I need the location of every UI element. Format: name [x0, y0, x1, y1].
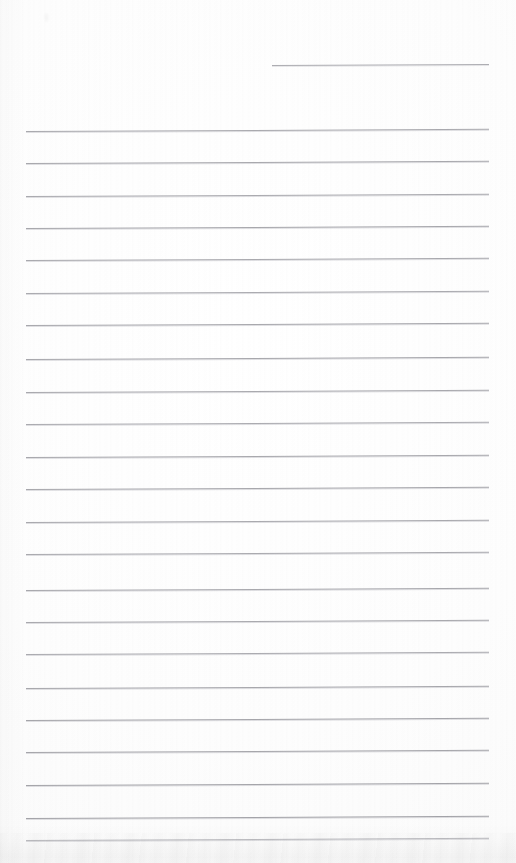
ruled-line — [26, 455, 489, 458]
ruled-lines-layer — [0, 0, 516, 863]
ruled-line — [26, 652, 489, 655]
ruled-line — [26, 226, 489, 229]
ruled-line — [26, 588, 489, 591]
ruled-line — [26, 161, 489, 164]
ruled-line — [26, 323, 489, 326]
scanned-page — [0, 0, 516, 863]
ruled-line — [26, 783, 489, 786]
ruled-line — [26, 291, 489, 294]
ruled-line — [26, 129, 489, 132]
ruled-line — [26, 620, 489, 623]
ruled-line — [26, 487, 489, 490]
ruled-line — [26, 816, 489, 819]
ruled-line — [26, 194, 489, 197]
ruled-line — [26, 718, 489, 721]
ruled-line — [26, 357, 489, 360]
ruled-line-partial — [272, 64, 489, 66]
ruled-line — [26, 258, 489, 261]
ruled-line — [26, 750, 489, 753]
ruled-line — [26, 686, 489, 689]
ruled-line — [26, 422, 489, 425]
ruled-line — [26, 838, 489, 841]
ruled-line — [26, 390, 489, 393]
ruled-line — [26, 552, 489, 555]
ruled-line — [26, 520, 489, 523]
